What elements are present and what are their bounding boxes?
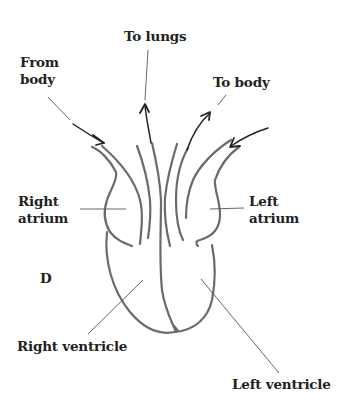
figure-letter: D [40,270,52,287]
left-atrium-outer-wall [196,147,239,246]
to-lungs-arrowhead [140,104,149,113]
label-to-body: To body [213,74,270,91]
to-lungs-leader-line [145,50,148,100]
label-right-atrium-line1: Right [18,193,68,210]
label-from-body: From body [20,54,59,88]
label-to-lungs: To lungs [124,28,186,45]
label-right-ventricle: Right ventricle [17,338,127,355]
label-right-atrium: Right atrium [18,193,68,227]
aorta-right-wall [176,148,188,240]
label-from-body-line2: body [20,71,59,88]
label-left-atrium-line2: atrium [249,210,299,227]
label-left-ventricle: Left ventricle [232,376,331,393]
heart-outline [92,140,239,333]
to-body-arrow [187,113,210,150]
left-ventricle-leader-line [201,279,279,373]
flow-arrows [48,50,268,150]
label-right-atrium-line2: atrium [18,210,68,227]
from-body-arrowhead [93,135,104,145]
right-atrium-outer-wall [92,147,132,246]
label-from-body-line1: From [20,54,59,71]
label-left-atrium-line1: Left [249,193,299,210]
pulmonary-vein-inner-wall [186,140,231,218]
to-body-leader-line [218,95,226,105]
from-body-leader-line [48,97,70,120]
septum [152,143,176,332]
label-left-atrium: Left atrium [249,193,299,227]
pulmonary-trunk-left-wall [137,146,150,238]
left-atrium-leader-line [210,208,244,209]
from-lungs-arrow [231,128,268,146]
to-body-arrowhead [201,112,210,120]
